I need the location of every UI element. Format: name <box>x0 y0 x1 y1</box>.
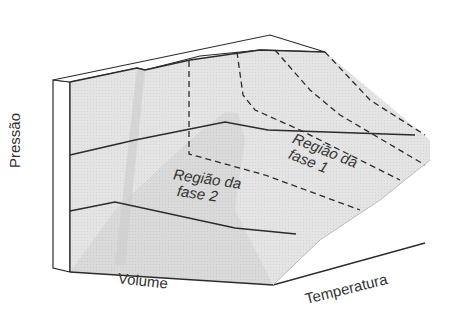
phase-diagram <box>0 0 449 311</box>
left-wall <box>53 80 70 272</box>
pressure-axis-label: Pressão <box>6 113 23 168</box>
pvt-surface <box>70 50 430 285</box>
